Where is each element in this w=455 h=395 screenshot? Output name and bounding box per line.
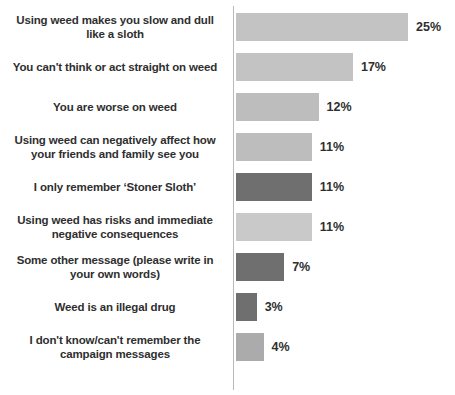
category-label: Using weed makes you slow and dulllike a… xyxy=(4,7,226,47)
category-label: I only remember ‘Stoner Sloth’ xyxy=(4,167,226,207)
bar xyxy=(236,213,312,241)
bar-row: You are worse on weed12% xyxy=(0,87,455,127)
category-label: I don't know/can't remember thecampaign … xyxy=(4,327,226,367)
bar-row: I don't know/can't remember thecampaign … xyxy=(0,327,455,367)
category-label-line: I don't know/can't remember the xyxy=(30,333,201,347)
category-label-line: Weed is an illegal drug xyxy=(55,300,176,314)
category-label-line: Using weed has risks and immediate xyxy=(17,213,213,227)
category-label: Weed is an illegal drug xyxy=(4,287,226,327)
bar-row: Using weed can negatively affect howyour… xyxy=(0,127,455,167)
bar-value-label: 4% xyxy=(272,327,290,367)
bar xyxy=(236,293,257,321)
category-label: Some other message (please write inyour … xyxy=(4,247,226,287)
category-label-line: like a sloth xyxy=(86,27,144,41)
bar-value-label: 25% xyxy=(416,7,441,47)
category-label-line: your friends and family see you xyxy=(31,147,199,161)
category-label-line: Using weed can negatively affect how xyxy=(14,133,215,147)
bar-row: You can't think or act straight on weed1… xyxy=(0,47,455,87)
bar-value-label: 3% xyxy=(265,287,283,327)
bar-value-label: 11% xyxy=(320,127,344,167)
category-label-line: negative consequences xyxy=(52,227,179,241)
bar xyxy=(236,333,264,361)
bar xyxy=(236,133,312,161)
bar-row: Using weed has risks and immediatenegati… xyxy=(0,207,455,247)
bar-row: Using weed makes you slow and dulllike a… xyxy=(0,7,455,47)
category-label-line: You can't think or act straight on weed xyxy=(13,60,217,74)
bar xyxy=(236,53,353,81)
bar-row: Some other message (please write inyour … xyxy=(0,247,455,287)
category-label: You are worse on weed xyxy=(4,87,226,127)
bar-value-label: 11% xyxy=(320,167,344,207)
bar-value-label: 12% xyxy=(327,87,352,127)
category-label-line: Using weed makes you slow and dull xyxy=(16,13,213,27)
bar-row: Weed is an illegal drug3% xyxy=(0,287,455,327)
bar-value-label: 17% xyxy=(361,47,386,87)
category-label-line: You are worse on weed xyxy=(53,100,177,114)
category-label: You can't think or act straight on weed xyxy=(4,47,226,87)
bar xyxy=(236,13,408,41)
category-label-line: Some other message (please write in xyxy=(17,253,214,267)
category-label-line: I only remember ‘Stoner Sloth’ xyxy=(34,180,196,194)
category-label-line: campaign messages xyxy=(60,347,170,361)
bar-value-label: 7% xyxy=(292,247,310,287)
bar-row: I only remember ‘Stoner Sloth’11% xyxy=(0,167,455,207)
category-label: Using weed can negatively affect howyour… xyxy=(4,127,226,167)
category-label-line: your own words) xyxy=(70,267,160,281)
bar xyxy=(236,253,284,281)
bar xyxy=(236,173,312,201)
bar xyxy=(236,93,319,121)
category-label: Using weed has risks and immediatenegati… xyxy=(4,207,226,247)
bar-chart: Using weed makes you slow and dulllike a… xyxy=(0,0,455,395)
bar-value-label: 11% xyxy=(320,207,344,247)
